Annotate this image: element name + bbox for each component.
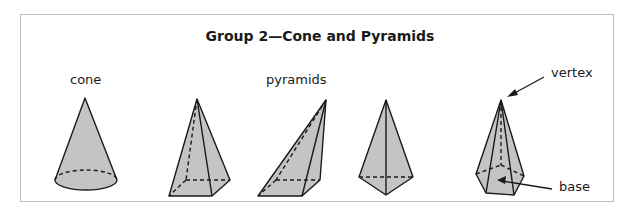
oblique-pyramid-shape — [258, 100, 326, 196]
shapes-canvas — [0, 0, 640, 220]
cone-shape — [55, 98, 117, 190]
vertex-arrow — [507, 77, 544, 97]
square-pyramid-shape — [169, 99, 230, 196]
triangular-pyramid-shape — [359, 100, 413, 195]
